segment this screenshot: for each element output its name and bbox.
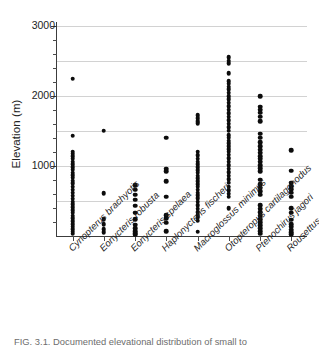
y-axis-minor-tick — [53, 180, 57, 181]
y-axis-minor-tick — [53, 152, 57, 153]
data-point — [195, 121, 200, 126]
data-point — [133, 197, 138, 202]
gridline — [57, 61, 307, 62]
data-point — [70, 77, 75, 82]
data-point — [102, 191, 107, 196]
y-axis-minor-tick — [53, 208, 57, 209]
data-point — [164, 229, 169, 234]
figure-caption: FIG. 3.1. Documented elevational distrib… — [14, 336, 314, 347]
data-point — [289, 168, 294, 173]
y-axis-minor-tick — [53, 124, 57, 125]
data-point — [227, 61, 232, 66]
data-point — [164, 194, 169, 199]
data-point — [102, 230, 107, 235]
data-point — [258, 119, 263, 124]
data-point — [102, 128, 107, 133]
data-point — [164, 179, 169, 184]
data-point — [195, 229, 200, 234]
y-axis-tick-label: 3000 — [9, 19, 55, 31]
gridline — [57, 26, 307, 27]
y-axis-minor-tick — [53, 194, 57, 195]
data-point — [70, 232, 75, 237]
gridline — [57, 96, 307, 97]
data-point — [164, 135, 169, 140]
data-point — [164, 169, 169, 174]
figure-container: Elevation (m) 100020003000 Cynopterus br… — [0, 0, 319, 347]
y-axis-minor-tick — [53, 138, 57, 139]
y-axis-tick-label: 2000 — [9, 89, 55, 101]
y-axis-minor-tick — [53, 222, 57, 223]
y-axis-minor-tick — [53, 110, 57, 111]
data-point — [289, 194, 294, 199]
gridline — [57, 131, 307, 132]
y-axis-minor-tick — [53, 82, 57, 83]
data-point — [70, 133, 75, 138]
y-axis-minor-tick — [53, 68, 57, 69]
data-point — [258, 169, 263, 174]
y-axis-minor-tick — [53, 54, 57, 55]
data-point — [227, 71, 232, 76]
data-point — [289, 148, 294, 153]
data-point — [227, 194, 232, 199]
y-axis-tick-label: 1000 — [9, 159, 55, 171]
data-point — [258, 94, 263, 99]
gridline — [57, 166, 307, 167]
y-axis-minor-tick — [53, 40, 57, 41]
